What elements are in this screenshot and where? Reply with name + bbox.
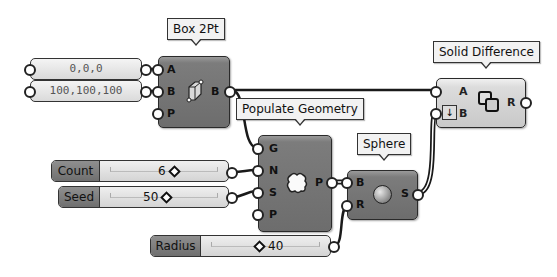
difference-grip-a[interactable] xyxy=(430,86,442,98)
populate-grip-g[interactable] xyxy=(252,143,264,155)
seed-slider-grip[interactable] xyxy=(226,192,238,204)
difference-grip-b[interactable] xyxy=(430,108,442,120)
count-slider-grip[interactable] xyxy=(226,167,238,179)
sphere-input-b[interactable]: B xyxy=(356,176,364,189)
solid-difference-icon xyxy=(477,90,501,114)
difference-input-a[interactable]: A xyxy=(459,85,468,98)
panel-point-b[interactable]: 100,100,100 xyxy=(30,80,142,102)
box2pt-grip-b[interactable] xyxy=(152,86,164,98)
box2pt-input-a[interactable]: A xyxy=(167,63,176,76)
radius-slider[interactable]: Radius 40 xyxy=(150,235,331,257)
seed-slider-label: Seed xyxy=(59,187,100,207)
difference-output-r[interactable]: R xyxy=(507,96,515,109)
radius-value: 40 xyxy=(268,239,283,253)
sphere-icon xyxy=(373,185,392,204)
populate-geometry-component[interactable]: G N S P P xyxy=(258,135,332,232)
seed-slider-track[interactable]: 50 xyxy=(100,187,228,207)
populate-cloud-icon xyxy=(285,171,309,195)
populate-grip-s[interactable] xyxy=(252,187,264,199)
populate-grip-out[interactable] xyxy=(326,177,338,189)
box2pt-component[interactable]: A B P B xyxy=(158,56,230,128)
populate-input-n[interactable]: N xyxy=(269,164,278,177)
radius-slider-label: Radius xyxy=(151,236,201,256)
box2pt-input-b[interactable]: B xyxy=(167,85,175,98)
box2pt-grip-out[interactable] xyxy=(224,86,236,98)
difference-input-b[interactable]: B xyxy=(459,107,467,120)
box2pt-grip-p[interactable] xyxy=(152,108,164,120)
panel-b-input-grip[interactable] xyxy=(24,86,36,98)
panel-value: 0,0,0 xyxy=(69,62,102,75)
solid-difference-tooltip: Solid Difference xyxy=(433,41,540,63)
panel-point-a[interactable]: 0,0,0 xyxy=(30,58,142,80)
box2pt-tooltip: Box 2Pt xyxy=(167,18,225,40)
panel-b-output-grip[interactable] xyxy=(140,86,152,98)
sphere-input-r[interactable]: R xyxy=(356,198,364,211)
radius-slider-grip[interactable] xyxy=(328,241,340,253)
populate-input-p[interactable]: P xyxy=(269,208,277,221)
flatten-arrow-icon[interactable]: ↓ xyxy=(442,105,457,120)
panel-a-input-grip[interactable] xyxy=(24,64,36,76)
panel-a-output-grip[interactable] xyxy=(140,64,152,76)
panel-value: 100,100,100 xyxy=(50,84,123,97)
sphere-grip-r[interactable] xyxy=(341,200,353,212)
sphere-tooltip: Sphere xyxy=(357,133,411,155)
box2pt-output-b[interactable]: B xyxy=(211,85,219,98)
count-slider-handle[interactable] xyxy=(168,165,181,178)
populate-input-g[interactable]: G xyxy=(269,142,278,155)
populate-grip-p[interactable] xyxy=(252,209,264,221)
sphere-component[interactable]: B R S xyxy=(347,170,418,220)
sphere-grip-out[interactable] xyxy=(412,189,424,201)
box-icon xyxy=(184,79,204,103)
count-value: 6 xyxy=(158,164,166,178)
seed-slider[interactable]: Seed 50 xyxy=(58,186,229,208)
sphere-grip-b[interactable] xyxy=(341,177,353,189)
populate-output-p[interactable]: P xyxy=(315,176,323,189)
count-slider-label: Count xyxy=(52,161,100,181)
populate-grip-n[interactable] xyxy=(252,165,264,177)
wire-radius-to-r xyxy=(334,206,348,246)
radius-slider-track[interactable]: 40 xyxy=(201,236,330,256)
radius-slider-handle[interactable] xyxy=(253,240,266,253)
box2pt-grip-a[interactable] xyxy=(152,64,164,76)
populate-input-s[interactable]: S xyxy=(269,186,277,199)
seed-value: 50 xyxy=(143,190,158,204)
count-slider[interactable]: Count 6 xyxy=(51,160,229,182)
box2pt-input-p[interactable]: P xyxy=(167,107,175,120)
sphere-output-s[interactable]: S xyxy=(401,187,409,200)
difference-grip-out[interactable] xyxy=(520,97,532,109)
populate-geometry-tooltip: Populate Geometry xyxy=(236,98,364,120)
seed-slider-handle[interactable] xyxy=(160,191,173,204)
solid-difference-component[interactable]: A ↓ B R xyxy=(436,78,526,128)
count-slider-track[interactable]: 6 xyxy=(100,161,228,181)
